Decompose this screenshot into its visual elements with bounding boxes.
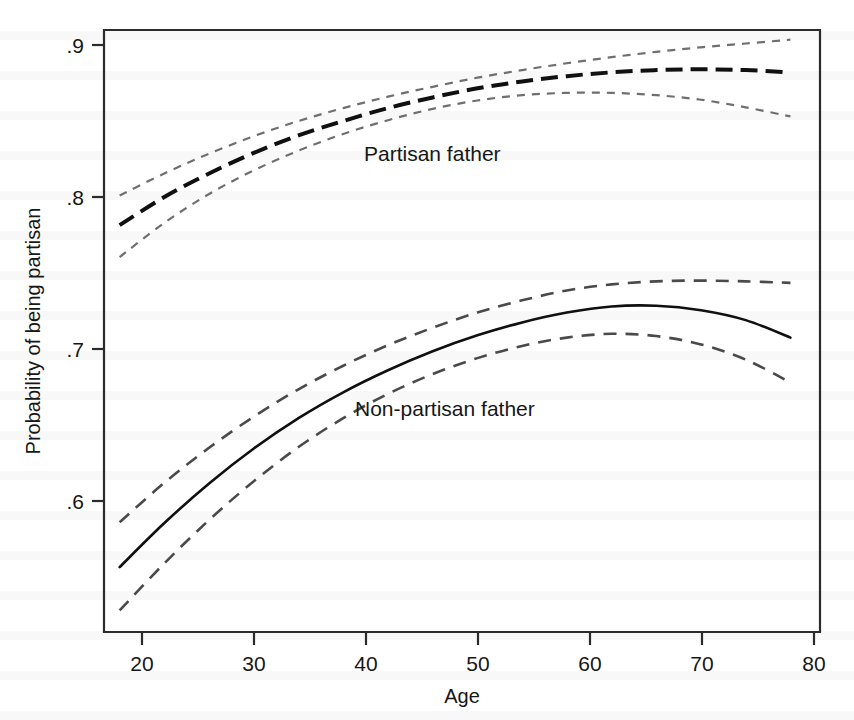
curve-non-partisan-father — [120, 305, 791, 567]
x-axis-tick-labels: 20 30 40 50 60 70 80 — [130, 652, 825, 675]
y-axis-ticks — [92, 45, 104, 501]
plot-frame — [104, 30, 820, 632]
curve-non-partisan-father-lower-95-ci — [120, 334, 791, 611]
chart-figure: .9 .8 .7 .6 20 30 40 50 60 70 80 Age Pro — [0, 0, 854, 720]
curve-partisan-father-lower-95-ci — [120, 93, 791, 257]
x-axis-title: Age — [444, 685, 480, 707]
annotation-non-partisan-father: Non-partisan father — [355, 397, 535, 420]
annotation-partisan-father: Partisan father — [364, 142, 501, 165]
y-tick-label-7: .7 — [66, 338, 84, 361]
y-tick-label-6: .6 — [66, 490, 84, 513]
y-tick-label-9: .9 — [66, 34, 84, 57]
x-tick-label-20: 20 — [130, 652, 153, 675]
x-axis-ticks — [142, 632, 814, 645]
x-tick-label-30: 30 — [242, 652, 265, 675]
y-tick-label-8: .8 — [66, 186, 84, 209]
x-tick-label-40: 40 — [354, 652, 377, 675]
x-tick-label-60: 60 — [578, 652, 601, 675]
probability-partisan-line-chart: .9 .8 .7 .6 20 30 40 50 60 70 80 Age Pro — [0, 0, 854, 720]
y-axis-title: Probability of being partisan — [22, 208, 44, 455]
x-tick-label-80: 80 — [802, 652, 825, 675]
x-tick-label-50: 50 — [466, 652, 489, 675]
y-axis-tick-labels: .9 .8 .7 .6 — [66, 34, 84, 513]
x-tick-label-70: 70 — [690, 652, 713, 675]
chart-curves — [120, 40, 791, 611]
curve-partisan-father-upper-95-ci — [120, 40, 791, 196]
